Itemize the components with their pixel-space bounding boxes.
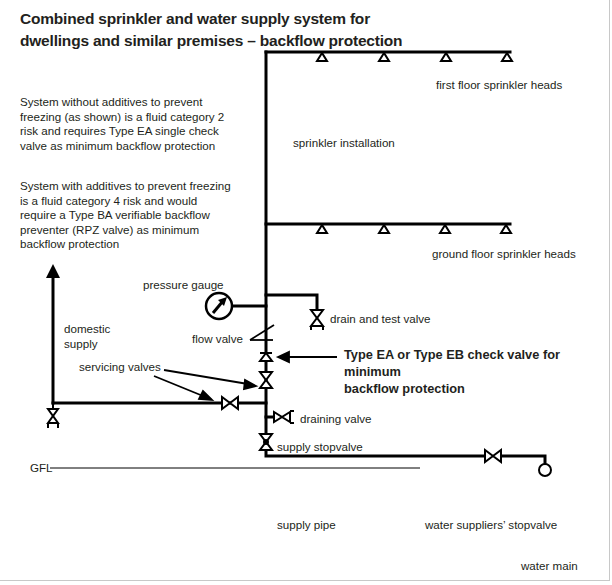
label-pressure-gauge: pressure gauge: [143, 278, 224, 292]
drain-test-branch-pipe: [266, 295, 317, 310]
label-supply-stopvalve: supply stopvalve: [277, 440, 363, 454]
label-flow-valve: flow valve: [192, 332, 243, 346]
label-line: supply: [64, 337, 110, 351]
check-valve-icon: [260, 353, 272, 361]
sprinkler-head-icon: [501, 225, 511, 233]
servicing-valve-riser-icon: [260, 372, 272, 388]
water-suppliers-stopvalve-icon: [485, 450, 501, 462]
label-line: domestic: [64, 322, 110, 336]
label-domestic-supply: domestic supply: [64, 322, 110, 351]
draining-valve-icon: [274, 411, 294, 423]
first-floor-sprinkler-heads: [317, 53, 512, 61]
pressure-gauge-icon: [206, 293, 232, 319]
drain-test-valve-icon: [311, 310, 323, 330]
sprinkler-head-icon: [502, 53, 512, 61]
label-ground-floor-sprinkler-heads: ground floor sprinkler heads: [432, 247, 576, 261]
water-main-pipe: [500, 456, 545, 463]
label-line: backflow protection: [344, 380, 612, 397]
label-first-floor-sprinkler-heads: first floor sprinkler heads: [436, 78, 562, 92]
label-water-main: water main: [521, 559, 578, 573]
arrow-up-icon: [46, 264, 60, 278]
sprinkler-head-icon: [317, 225, 327, 233]
label-line: Type EA or Type EB check valve for minim…: [344, 346, 612, 380]
sprinkler-head-icon: [441, 53, 451, 61]
check-valve-leader-arrow: [278, 352, 337, 362]
water-main-icon: [539, 464, 551, 476]
label-drain-and-test-valve: drain and test valve: [330, 312, 431, 326]
label-check-valve: Type EA or Type EB check valve for minim…: [344, 346, 612, 397]
flow-valve-icon: [250, 325, 274, 340]
supply-stopvalve-icon: [260, 434, 272, 450]
sprinkler-head-icon: [379, 225, 389, 233]
label-servicing-valves: servicing valves: [79, 360, 161, 374]
domestic-outlet-valve-icon: [48, 404, 58, 428]
label-sprinkler-installation: sprinkler installation: [293, 136, 395, 150]
servicing-valve-domestic-icon: [222, 397, 238, 409]
ground-floor-sprinkler-heads: [317, 225, 511, 233]
label-draining-valve: draining valve: [300, 412, 372, 426]
label-supply-pipe: supply pipe: [277, 518, 336, 532]
sprinkler-head-icon: [440, 225, 450, 233]
label-water-suppliers-stopvalve: water suppliers’ stopvalve: [425, 518, 557, 532]
sprinkler-head-icon: [379, 53, 389, 61]
servicing-valves-leaders: [154, 370, 256, 400]
label-gfl: GFL: [30, 461, 53, 475]
sprinkler-head-icon: [317, 53, 327, 61]
